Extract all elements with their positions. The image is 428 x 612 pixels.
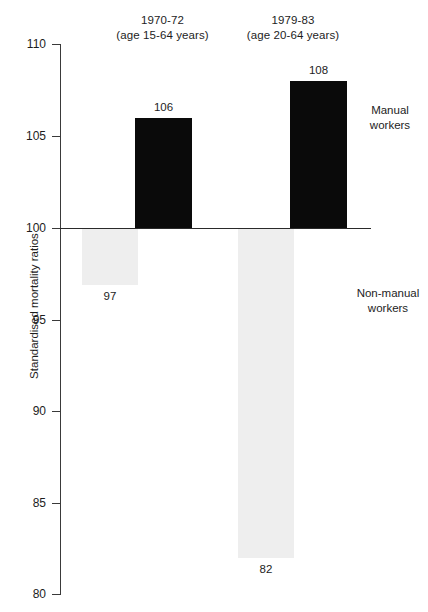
legend-label-nonmanual-workers: Non-manual workers: [348, 286, 428, 316]
legend-label-line1: Non-manual: [348, 286, 428, 301]
y-tick-110: 110: [0, 44, 61, 45]
y-tick-label: 110: [2, 38, 46, 50]
column-header-agerange: (age 20-64 years): [233, 28, 353, 43]
bar-value-label: 82: [228, 563, 304, 575]
bar-value-label: 97: [72, 290, 148, 302]
y-tick-label: 90: [2, 405, 46, 417]
legend-label-line2: workers: [348, 301, 428, 316]
y-tick-label: 105: [2, 130, 46, 142]
bar-value-label: 106: [126, 101, 201, 113]
column-header-period: 1979-83: [233, 13, 353, 28]
legend-label-manual-workers: Manual workers: [350, 103, 428, 133]
y-axis-title: Standardised mortality ratios: [28, 206, 40, 406]
y-tick-105: 105: [0, 136, 61, 137]
bar-manual-1970-72: [135, 118, 192, 228]
y-tick-label: 85: [2, 497, 46, 509]
y-tick-85: 85: [0, 503, 61, 504]
legend-label-line1: Manual: [350, 103, 428, 118]
column-header-period: 1970-72: [110, 13, 215, 28]
chart-canvas: 1970-72 (age 15-64 years) 1979-83 (age 2…: [0, 0, 428, 612]
y-tick-90: 90: [0, 411, 61, 412]
bar-nonmanual-1979-83: [238, 229, 294, 558]
column-header-1979-83: 1979-83 (age 20-64 years): [233, 13, 353, 42]
bar-nonmanual-1970-72: [82, 229, 138, 285]
bar-manual-1979-83: [290, 81, 347, 228]
bar-value-label: 108: [281, 64, 356, 76]
y-tick-label: 80: [2, 588, 46, 600]
y-tick-80: 80: [0, 594, 61, 595]
legend-label-line2: workers: [350, 118, 428, 133]
column-header-agerange: (age 15-64 years): [110, 28, 215, 43]
column-header-1970-72: 1970-72 (age 15-64 years): [110, 13, 215, 42]
